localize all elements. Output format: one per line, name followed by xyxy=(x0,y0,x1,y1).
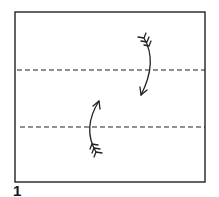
fold-down-arrow-icon xyxy=(138,33,151,95)
fold-up-arrow-icon xyxy=(90,101,102,157)
step-number: 1 xyxy=(13,183,21,197)
paper-square xyxy=(15,12,205,182)
fold-diagram xyxy=(0,0,219,197)
